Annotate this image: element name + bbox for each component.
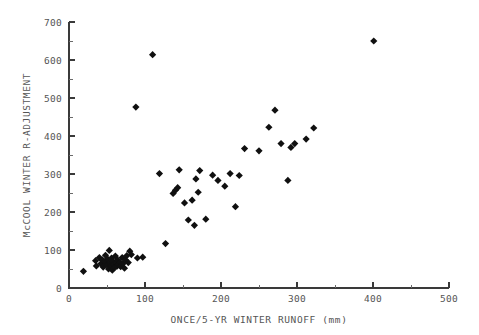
data-point-marker [370,37,377,44]
data-point-marker [303,135,310,142]
data-point-marker [227,170,234,177]
data-point-marker [149,51,156,58]
y-tick-label: 200 [44,207,62,218]
data-point-marker [236,172,243,179]
minor-ticks [69,41,411,288]
data-point-marker [265,124,272,131]
data-point-marker [310,124,317,131]
data-point-marker [132,104,139,111]
data-point-marker [176,166,183,173]
data-point-marker [209,172,216,179]
data-point-marker [241,145,248,152]
x-tick-label: 300 [288,293,306,304]
scatter-plot-figure: 0100200300400500 0100200300400500600700 … [0,0,479,335]
x-tick-label: 0 [66,293,72,304]
data-point-marker [191,222,198,229]
x-tick-label: 400 [364,293,382,304]
y-tick-label: 100 [44,245,62,256]
x-axis-title: ONCE/5-YR WINTER RUNOFF (mm) [171,314,348,325]
data-point-marker [156,170,163,177]
axes-group [69,22,449,288]
y-tick-label: 300 [44,169,62,180]
data-point-marker [106,247,113,254]
data-point-marker [80,268,87,275]
y-tick-label: 700 [44,17,62,28]
major-ticks [69,22,449,288]
x-tick-label: 100 [136,293,154,304]
data-point-marker [195,189,202,196]
plot-canvas: 0100200300400500 0100200300400500600700 … [0,0,479,335]
data-point-marker [255,147,262,154]
data-point-marker [221,183,228,190]
y-tick-label: 500 [44,93,62,104]
data-point-marker [139,254,146,261]
x-axis-tick-labels: 0100200300400500 [66,293,458,304]
y-tick-label: 600 [44,55,62,66]
data-point-marker [271,107,278,114]
y-axis-title: McCOOL WINTER R-ADJUSTMENT [21,73,32,237]
data-point-marker [192,175,199,182]
axis-lines [69,22,449,288]
data-point-marker [189,197,196,204]
data-point-marker [185,216,192,223]
data-point-marker [232,203,239,210]
data-points-group [80,37,378,274]
data-point-marker [202,216,209,223]
data-point-marker [181,199,188,206]
y-axis-tick-labels: 0100200300400500600700 [44,17,62,294]
data-point-marker [196,167,203,174]
data-point-marker [162,240,169,247]
x-tick-label: 500 [440,293,458,304]
y-tick-label: 400 [44,131,62,142]
y-tick-label: 0 [56,283,62,294]
data-point-marker [277,140,284,147]
data-point-marker [214,177,221,184]
x-tick-label: 200 [212,293,230,304]
data-point-marker [284,177,291,184]
